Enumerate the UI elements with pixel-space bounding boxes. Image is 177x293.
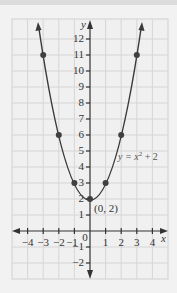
equation-suffix: + 2 <box>142 151 158 162</box>
data-point <box>118 132 124 138</box>
x-tick-label: 1 <box>103 236 109 248</box>
y-tick-label: 8 <box>79 96 85 108</box>
y-tick-label: 9 <box>79 80 85 92</box>
parabola-chart: −4 −3 −2 −1 1 2 3 4 0 12 11 10 9 8 7 6 5… <box>0 0 177 293</box>
y-axis-label: y <box>80 18 86 30</box>
y-tick-label: 6 <box>79 128 85 140</box>
x-tick-label: −2 <box>53 236 65 248</box>
x-tick-label: 3 <box>134 236 140 248</box>
data-point <box>40 52 46 58</box>
data-point <box>71 180 77 186</box>
data-point <box>103 180 109 186</box>
y-tick-label: 5 <box>79 144 85 156</box>
vertex-label: (0, 2) <box>94 202 118 215</box>
x-tick-label: 4 <box>150 236 156 248</box>
x-tick-label: −3 <box>37 236 49 248</box>
x-tick-label: −4 <box>22 236 34 248</box>
equation-label: y = x2 + 2 <box>117 150 158 162</box>
y-tick-label: −1 <box>72 240 84 252</box>
data-point <box>134 52 140 58</box>
y-tick-label: 11 <box>73 48 84 60</box>
y-tick-label: 7 <box>79 112 85 124</box>
equation-prefix: y = x <box>117 151 139 162</box>
y-tick-label: 10 <box>73 64 85 76</box>
data-point <box>56 132 62 138</box>
y-tick-label: 4 <box>79 160 85 172</box>
x-axis-label: x <box>160 232 166 244</box>
y-tick-label: −2 <box>72 256 84 268</box>
vertex-point <box>87 196 93 202</box>
y-tick-label: 12 <box>73 32 84 44</box>
x-tick-label: 2 <box>118 236 124 248</box>
y-tick-label: 1 <box>79 208 85 220</box>
y-tick-label: 3 <box>79 176 85 188</box>
